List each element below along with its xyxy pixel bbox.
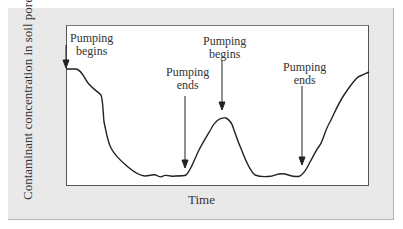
annotation-line: begins (70, 45, 113, 58)
annotation-pumping-ends-2: Pumping ends (283, 61, 326, 87)
annotation-pumping-begins-2: Pumping begins (203, 35, 246, 61)
annotation-line: ends (283, 74, 326, 87)
annotation-pumping-ends-1: Pumping ends (166, 66, 209, 92)
annotation-line: ends (166, 79, 209, 92)
annotation-pumping-begins-1: Pumping begins (70, 32, 113, 58)
curve-layer (0, 0, 403, 229)
annotation-line: begins (203, 48, 246, 61)
